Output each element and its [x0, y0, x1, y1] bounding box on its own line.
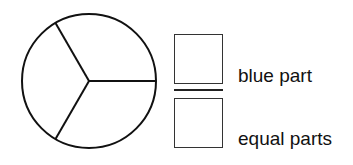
divider-line-lower-left	[56, 81, 90, 139]
denominator-label: equal parts	[238, 129, 332, 148]
denominator-input-box[interactable]	[174, 98, 223, 148]
numerator-label: blue part	[238, 66, 312, 85]
divider-line-upper-left	[56, 23, 90, 81]
fraction-bar	[174, 89, 223, 91]
numerator-input-box[interactable]	[174, 34, 223, 84]
